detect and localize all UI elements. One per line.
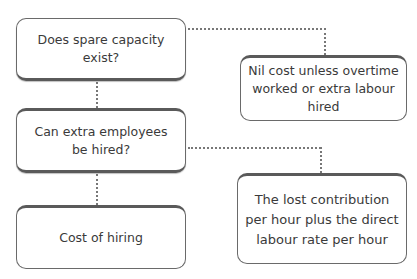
node-extra-employees-question: Can extra employees be hired? xyxy=(16,108,186,173)
connector-q1-r1-horizontal xyxy=(188,28,326,30)
node-text: Cost of hiring xyxy=(59,229,143,247)
node-nil-cost: Nil cost unless overtime worked or extra… xyxy=(240,55,407,121)
connector-q1-q2 xyxy=(96,82,98,108)
node-text: Does spare capacity exist? xyxy=(38,31,165,67)
node-text: The lost contribution per hour plus the … xyxy=(245,190,398,250)
node-text: Nil cost unless overtime worked or extra… xyxy=(248,62,398,116)
node-spare-capacity-question: Does spare capacity exist? xyxy=(16,18,186,81)
connector-q1-r1-vertical xyxy=(324,28,326,55)
node-lost-contribution: The lost contribution per hour plus the … xyxy=(237,173,407,264)
node-cost-of-hiring: Cost of hiring xyxy=(16,205,186,269)
connector-q2-r2-horizontal xyxy=(188,147,321,149)
node-text: Can extra employees be hired? xyxy=(34,123,167,159)
connector-q2-r3 xyxy=(96,174,98,205)
connector-q2-r2-vertical xyxy=(320,147,322,173)
